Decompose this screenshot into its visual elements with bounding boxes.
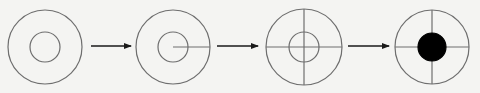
inner-circle — [30, 32, 60, 62]
outer-circle — [8, 10, 82, 84]
diagram-step-2 — [136, 10, 210, 84]
filled-inner-circle — [418, 33, 446, 61]
diagram-step-4 — [395, 10, 469, 84]
diagram-step-3 — [266, 9, 342, 85]
steps-layer — [8, 9, 469, 85]
circle-progression-diagram — [0, 0, 480, 93]
diagram-step-1 — [8, 10, 82, 84]
